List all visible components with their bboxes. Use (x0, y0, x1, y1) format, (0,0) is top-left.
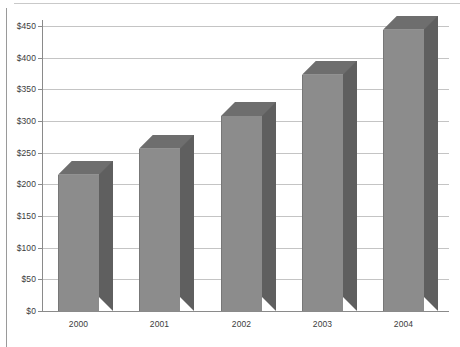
x-axis-tick-label: 2001 (125, 319, 195, 329)
x-axis-tick-label: 2000 (44, 319, 114, 329)
y-axis-tick-mark (38, 89, 43, 90)
y-axis-tick-label: $150 (0, 212, 36, 221)
bar-side-face (343, 61, 357, 297)
bar-side-face (262, 102, 276, 297)
x-axis-tick-label: 2003 (288, 319, 358, 329)
bar-column (383, 16, 438, 311)
bar-column (221, 102, 276, 311)
y-axis-tick-mark (38, 311, 43, 312)
x-axis-tick-label: 2002 (207, 319, 277, 329)
bar-chart: $0$50$100$150$200$250$300$350$400$450 20… (0, 0, 460, 347)
y-axis-tick-mark (38, 184, 43, 185)
y-axis-tick-label: $200 (0, 180, 36, 189)
y-axis-tick-label: $250 (0, 149, 36, 158)
bar-side-face (424, 16, 438, 297)
bar-side-bevel (180, 297, 194, 311)
bar-side-face (180, 135, 194, 297)
bar-front-face (221, 116, 262, 311)
y-axis-tick-label: $300 (0, 117, 36, 126)
y-axis-tick-mark (38, 26, 43, 27)
bar-side-face (99, 161, 113, 297)
chart-page: $0$50$100$150$200$250$300$350$400$450 20… (0, 0, 460, 347)
bar-front-face (58, 175, 99, 311)
y-axis-tick-label: $0 (0, 307, 36, 316)
y-axis-tick-label: $400 (0, 54, 36, 63)
bar-column (58, 161, 113, 311)
y-axis-tick-mark (38, 153, 43, 154)
bar-side-bevel (99, 297, 113, 311)
y-axis-tick-label: $100 (0, 244, 36, 253)
y-axis-line (42, 20, 43, 312)
y-axis-tick-mark (38, 279, 43, 280)
y-axis-tick-mark (38, 216, 43, 217)
x-axis-tick-label: 2004 (369, 319, 439, 329)
bar-column (139, 135, 194, 311)
y-axis-tick-label: $50 (0, 275, 36, 284)
bar-front-face (302, 75, 343, 311)
bar-side-bevel (262, 297, 276, 311)
bar-side-bevel (424, 297, 438, 311)
y-axis-tick-label: $350 (0, 85, 36, 94)
bar-front-face (139, 149, 180, 311)
bar-side-bevel (343, 297, 357, 311)
y-axis-tick-label: $450 (0, 22, 36, 31)
gridline (43, 311, 449, 312)
y-axis-tick-mark (38, 58, 43, 59)
y-axis-tick-mark (38, 121, 43, 122)
bar-column (302, 61, 357, 311)
y-axis-tick-mark (38, 248, 43, 249)
bar-front-face (383, 30, 424, 311)
